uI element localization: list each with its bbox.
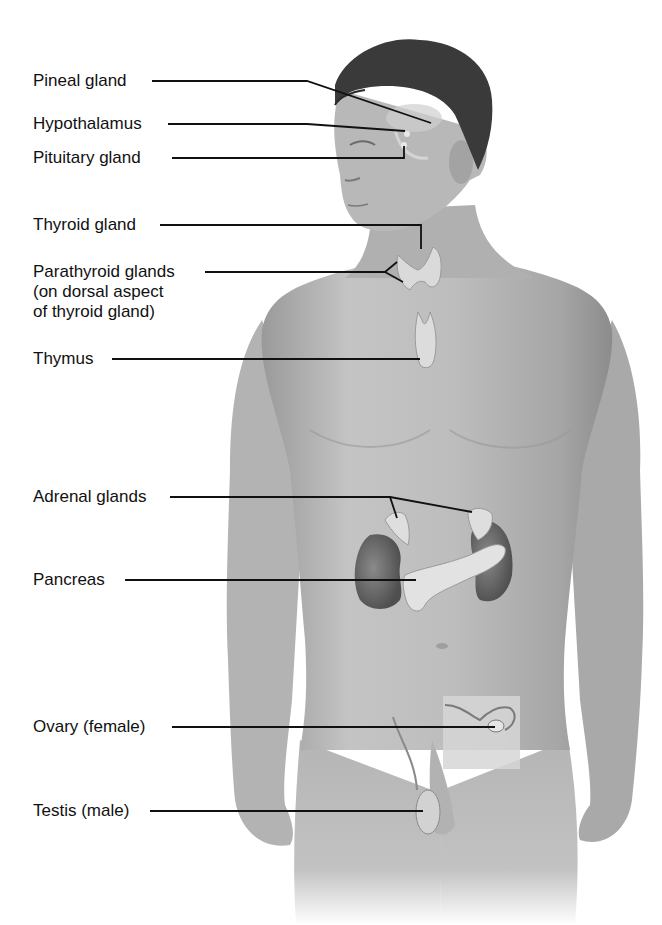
body-illustration xyxy=(0,0,662,925)
label-parathyroid-line2: (on dorsal aspect xyxy=(33,282,175,302)
label-parathyroid-line3: of thyroid gland) xyxy=(33,302,175,322)
label-parathyroid-line1: Parathyroid glands xyxy=(33,262,175,282)
label-adrenal-glands: Adrenal glands xyxy=(33,487,146,507)
label-thymus: Thymus xyxy=(33,349,93,369)
label-pineal-gland: Pineal gland xyxy=(33,71,127,91)
label-thyroid-gland: Thyroid gland xyxy=(33,215,136,235)
label-ovary: Ovary (female) xyxy=(33,717,145,737)
label-testis: Testis (male) xyxy=(33,801,129,821)
label-parathyroid-glands: Parathyroid glands (on dorsal aspect of … xyxy=(33,262,175,322)
head xyxy=(334,39,492,231)
label-pancreas: Pancreas xyxy=(33,570,105,590)
label-pituitary-gland: Pituitary gland xyxy=(33,148,141,168)
endocrine-diagram: Pineal gland Hypothalamus Pituitary glan… xyxy=(0,0,662,925)
label-hypothalamus: Hypothalamus xyxy=(33,114,142,134)
